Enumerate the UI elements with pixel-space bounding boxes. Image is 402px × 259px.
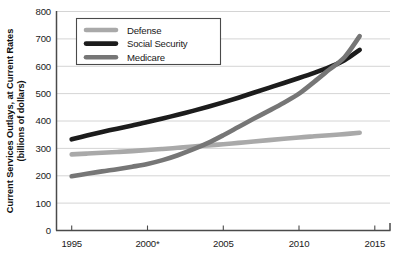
line-chart: 0100200300400500600700800 19952000*20052…: [0, 0, 402, 259]
legend-label-social-security: Social Security: [127, 38, 188, 49]
x-axis-tick-label: 2000*: [135, 238, 160, 249]
x-axis-tick-label: 2010: [289, 238, 310, 249]
chart-figure: 0100200300400500600700800 19952000*20052…: [0, 0, 402, 259]
legend-label-defense: Defense: [127, 25, 161, 36]
legend-label-medicare: Medicare: [127, 52, 165, 63]
y-axis-tick-labels: 0100200300400500600700800: [36, 6, 51, 236]
y-axis-tick-label: 500: [36, 88, 51, 99]
y-axis-title-line1: Current Services Outlays, at Current Rat…: [5, 29, 15, 213]
y-axis-tick-label: 200: [36, 170, 51, 181]
y-axis-tick-label: 400: [36, 115, 51, 126]
y-axis-tick-label: 600: [36, 61, 51, 72]
legend: DefenseSocial SecurityMedicare: [77, 19, 221, 65]
x-axis-tick-label: 2015: [365, 238, 386, 249]
y-axis-title-line2: (billions of dollars): [16, 80, 26, 161]
y-axis-tick-label: 800: [36, 6, 51, 17]
x-axis-tick-label: 2005: [213, 238, 234, 249]
y-axis-tick-label: 100: [36, 198, 51, 209]
y-axis-tick-label: 0: [46, 225, 51, 236]
x-axis-tick-label: 1995: [61, 238, 82, 249]
y-axis-tick-label: 700: [36, 33, 51, 44]
y-axis-tick-label: 300: [36, 143, 51, 154]
